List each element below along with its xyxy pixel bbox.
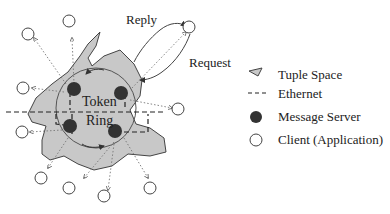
message-server-icon xyxy=(250,111,262,123)
legend-message-server: Message Server xyxy=(278,109,361,124)
token-label: Token xyxy=(82,94,117,109)
legend: Tuple Space Ethernet Message Server Clie… xyxy=(248,67,383,147)
ring-label: Ring xyxy=(86,113,113,128)
legend-tuple-space: Tuple Space xyxy=(278,67,342,82)
tuple-space-diagram: Reply Request Token Ring Tuple Space Eth… xyxy=(0,0,390,214)
client-icon xyxy=(250,134,262,146)
request-label: Request xyxy=(189,55,231,70)
legend-ethernet: Ethernet xyxy=(278,86,322,101)
reply-label: Reply xyxy=(126,12,158,27)
legend-client: Client (Application) xyxy=(278,132,383,147)
tuple-space-icon xyxy=(249,68,262,76)
